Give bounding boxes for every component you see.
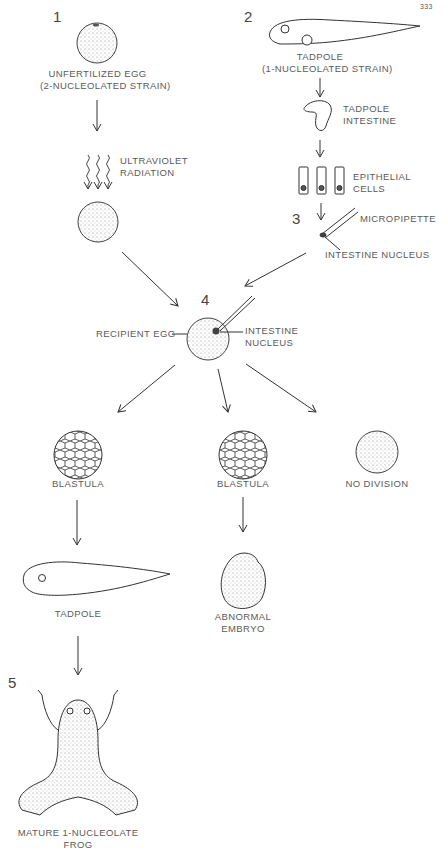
- irradiated-egg-icon: [78, 202, 118, 242]
- egg-label-line1: UNFERTILIZED EGG: [40, 68, 155, 80]
- tadpole-intestine-label: TADPOLE INTESTINE: [343, 103, 396, 127]
- recipient-egg-icon: [172, 296, 255, 360]
- blastula-left-label: BLASTULA: [38, 478, 118, 490]
- blastula-middle-icon: [219, 431, 267, 479]
- intestine-label-line2: INTESTINE: [343, 115, 396, 127]
- intestine-label-line1: TADPOLE: [343, 103, 396, 115]
- egg-label-line2: (2-NUCLEOLATED STRAIN): [40, 80, 155, 92]
- micropipette-label: MICROPIPETTE: [360, 213, 436, 225]
- tadpole-result-icon: [23, 562, 170, 595]
- epithelial-cells-icon: [299, 167, 344, 194]
- arrow: [122, 252, 178, 306]
- arrow: [218, 369, 228, 412]
- arrow: [118, 365, 175, 412]
- unfertilized-egg-label: UNFERTILIZED EGG (2-NUCLEOLATED STRAIN): [40, 68, 155, 92]
- nuclear-transplant-diagram: [0, 0, 448, 851]
- epithelial-label-line2: CELLS: [353, 183, 411, 195]
- epithelial-label-line1: EPITHELIAL: [353, 171, 411, 183]
- nucleus-label-line1: INTESTINE: [245, 325, 298, 337]
- tadpole-result-label: TADPOLE: [38, 608, 118, 620]
- blastula-middle-label: BLASTULA: [203, 478, 283, 490]
- step-number-5: 5: [8, 674, 16, 691]
- epithelial-cells-label: EPITHELIAL CELLS: [353, 171, 411, 195]
- step-number-3: 3: [292, 210, 300, 227]
- arrow: [245, 253, 306, 286]
- tadpole-label-line2: (1-NUCLEOLATED STRAIN): [262, 63, 378, 75]
- abnormal-embryo-icon: [221, 553, 265, 608]
- step-number-4: 4: [201, 291, 209, 308]
- tadpole-intestine-icon: [304, 101, 331, 131]
- step-number-2: 2: [244, 8, 252, 25]
- intestine-nucleus-pipette-label: INTESTINE NUCLEUS: [325, 249, 429, 261]
- no-division-label: NO DIVISION: [337, 478, 417, 490]
- mature-frog-icon: [19, 690, 138, 815]
- tadpole-label-line1: TADPOLE: [262, 51, 378, 63]
- abnormal-label-line2: EMBRYO: [203, 623, 283, 635]
- abnormal-label-line1: ABNORMAL: [203, 611, 283, 623]
- uv-label: ULTRAVIOLET RADIATION: [120, 155, 188, 179]
- ultraviolet-rays-icon: [87, 155, 110, 189]
- undivided-egg-icon: [356, 431, 398, 473]
- recipient-egg-label: RECIPIENT EGG: [96, 328, 175, 340]
- nucleus-label-line2: NUCLEUS: [245, 337, 298, 349]
- uv-label-line2: RADIATION: [120, 167, 188, 179]
- uv-label-line1: ULTRAVIOLET: [120, 155, 188, 167]
- page-number: 333: [420, 1, 433, 13]
- abnormal-embryo-label: ABNORMAL EMBRYO: [203, 611, 283, 635]
- intestine-nucleus-egg-label: INTESTINE NUCLEUS: [245, 325, 298, 349]
- tadpole-icon: [269, 19, 420, 45]
- mature-frog-label: MATURE 1-NUCLEOLATE FROG: [13, 827, 143, 851]
- step-number-1: 1: [53, 8, 61, 25]
- donor-tadpole-label: TADPOLE (1-NUCLEOLATED STRAIN): [262, 51, 378, 75]
- unfertilized-egg-icon: [77, 23, 117, 63]
- frog-label-line1: MATURE 1-NUCLEOLATE: [13, 827, 143, 839]
- frog-label-line2: FROG: [13, 839, 143, 851]
- arrow: [246, 364, 316, 412]
- micropipette-icon: [320, 208, 358, 250]
- blastula-left-icon: [54, 431, 102, 479]
